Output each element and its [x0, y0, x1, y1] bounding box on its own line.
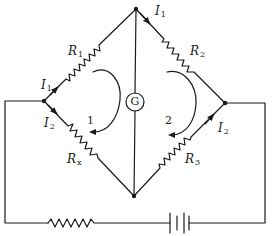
label-r1: R1 — [68, 45, 83, 59]
current-arrow-i2-left — [48, 105, 57, 114]
loop-1-arrowhead — [89, 129, 96, 135]
loop-1-arc — [92, 70, 120, 132]
node-left — [42, 99, 46, 103]
label-r2: R2 — [190, 45, 205, 59]
series-resistor — [48, 219, 170, 227]
label-r3: R3 — [185, 153, 200, 167]
node-right — [223, 101, 227, 105]
current-arrow-i2-right — [205, 114, 214, 124]
galvanometer-label: G — [126, 96, 144, 107]
loop-2-arrowhead — [168, 132, 175, 138]
loop-2-label: 2 — [165, 115, 172, 126]
label-rx: Rx — [67, 153, 82, 167]
current-arrow-i1-right — [140, 13, 150, 24]
loop-1-label: 1 — [87, 115, 94, 126]
circuit-drawing — [0, 0, 272, 236]
node-top — [134, 7, 138, 11]
label-i1-left: I1 — [41, 79, 52, 93]
wheatstone-bridge-diagram: R1 R2 Rx R3 I1 I2 I1 I2 G 1 2 — [0, 0, 272, 236]
label-i1-right: I1 — [155, 5, 166, 19]
label-i2-left: I2 — [44, 117, 55, 131]
label-i2-right: I2 — [218, 122, 229, 136]
node-bottom — [132, 194, 136, 198]
